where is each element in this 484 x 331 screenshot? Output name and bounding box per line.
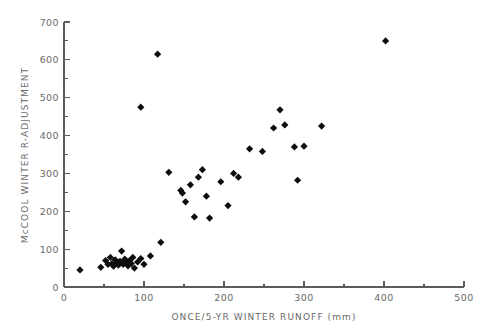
data-point-marker <box>224 202 231 209</box>
x-tick-label: 400 <box>374 292 393 303</box>
x-tick-label: 0 <box>61 292 67 303</box>
y-tick-label: 500 <box>40 92 59 103</box>
data-point-marker <box>270 124 277 131</box>
data-point-marker <box>217 178 224 185</box>
data-point-marker <box>206 215 213 222</box>
x-tick-label: 100 <box>134 292 153 303</box>
y-axis-ticks <box>64 22 70 287</box>
x-tick-label: 300 <box>294 292 313 303</box>
data-point-marker <box>187 181 194 188</box>
x-axis-ticks <box>64 281 464 287</box>
data-point-marker <box>291 143 298 150</box>
data-point-marker <box>118 247 125 254</box>
y-tick-label: 200 <box>40 206 59 217</box>
y-tick-label: 400 <box>40 130 59 141</box>
x-axis-tick-labels: 0100200300400500 <box>61 292 474 303</box>
data-point-marker <box>246 145 253 152</box>
data-point-markers <box>76 37 389 273</box>
plot-canvas: 0100200300400500600700 0100200300400500 … <box>0 0 484 331</box>
y-tick-label: 300 <box>40 168 59 179</box>
scatter-plot-figure: 0100200300400500600700 0100200300400500 … <box>0 0 484 331</box>
data-point-marker <box>191 213 198 220</box>
data-point-marker <box>203 193 210 200</box>
data-point-marker <box>300 143 307 150</box>
y-tick-label: 600 <box>40 54 59 65</box>
data-point-marker <box>165 169 172 176</box>
data-point-marker <box>137 104 144 111</box>
data-point-marker <box>281 121 288 128</box>
data-point-marker <box>276 106 283 113</box>
y-tick-label: 0 <box>53 282 59 293</box>
axis-lines <box>64 22 464 287</box>
data-point-marker <box>157 239 164 246</box>
x-tick-label: 200 <box>214 292 233 303</box>
y-axis-title: McCOOL WINTER R-ADJUSTMENT <box>20 67 30 243</box>
x-axis-title: ONCE/5-YR WINTER RUNOFF (mm) <box>171 312 356 322</box>
data-point-marker <box>294 177 301 184</box>
y-tick-label: 100 <box>40 244 59 255</box>
y-axis-tick-labels: 0100200300400500600700 <box>40 17 59 293</box>
data-point-marker <box>382 37 389 44</box>
data-point-marker <box>140 261 147 268</box>
data-point-marker <box>147 252 154 259</box>
data-point-marker <box>97 264 104 271</box>
data-point-marker <box>195 174 202 181</box>
data-point-marker <box>318 123 325 130</box>
data-point-marker <box>259 148 266 155</box>
data-point-marker <box>154 51 161 58</box>
data-point-marker <box>199 166 206 173</box>
data-point-marker <box>182 198 189 205</box>
data-point-marker <box>76 266 83 273</box>
x-tick-label: 500 <box>454 292 473 303</box>
y-tick-label: 700 <box>40 17 59 28</box>
